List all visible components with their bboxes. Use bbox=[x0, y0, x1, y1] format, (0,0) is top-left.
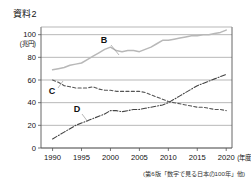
series-lines-group bbox=[53, 30, 227, 139]
y-tick-label-100: 100 bbox=[23, 30, 36, 39]
chart-figure: 資料2 100806040200(兆円) 1990199520002005201… bbox=[0, 0, 251, 181]
x-tick-label-2010: 2010 bbox=[160, 153, 177, 162]
axes-group bbox=[41, 27, 232, 148]
y-tick-label-80: 80 bbox=[28, 53, 36, 62]
line-chart-svg: 100806040200(兆円) 19901995200020052010201… bbox=[0, 0, 251, 181]
y-axis-unit-label: (兆円) bbox=[20, 39, 36, 48]
series-leader-b bbox=[111, 45, 119, 55]
series-label-d: D bbox=[74, 104, 81, 114]
y-tick-label-0: 0 bbox=[32, 144, 36, 153]
y-tick-label-40: 40 bbox=[28, 98, 36, 107]
y-tick-label-20: 20 bbox=[28, 121, 36, 130]
source-caption: (第6版「数字で見る日本の100年」他) bbox=[143, 169, 245, 178]
series-leader-d bbox=[82, 114, 88, 122]
y-tick-label-60: 60 bbox=[28, 76, 36, 85]
x-tick-label-2000: 2000 bbox=[102, 153, 119, 162]
ticks-group bbox=[38, 35, 226, 151]
x-tick-label-1995: 1995 bbox=[73, 153, 90, 162]
series-label-c: C bbox=[49, 86, 56, 96]
x-axis-unit-label: (年度) bbox=[237, 153, 251, 162]
y-axis-tick-labels: 100806040200(兆円) bbox=[20, 30, 36, 152]
series-label-b: B bbox=[101, 35, 108, 45]
x-tick-label-2015: 2015 bbox=[189, 153, 206, 162]
x-tick-label-2020: 2020 bbox=[218, 153, 235, 162]
chart-plot-area: 100806040200(兆円) 19901995200020052010201… bbox=[0, 0, 251, 181]
x-axis-tick-labels: 1990199520002005201020152020(年度) bbox=[44, 153, 251, 162]
series-line-B bbox=[53, 30, 227, 70]
x-tick-label-2005: 2005 bbox=[131, 153, 148, 162]
x-tick-label-1990: 1990 bbox=[44, 153, 61, 162]
